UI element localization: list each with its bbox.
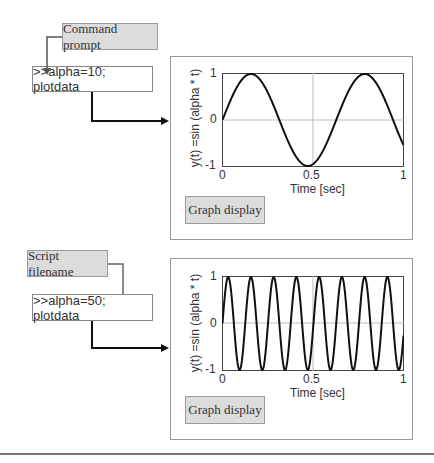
xtick-1-top: 1: [400, 168, 407, 182]
graph-display-text-bottom: Graph display: [188, 402, 261, 418]
xlabel-top: Time [sec]: [290, 182, 345, 196]
ylabel-bottom: y(t) =sin (alpha * t): [188, 258, 202, 388]
graph-display-button-bottom: Graph display: [185, 396, 265, 424]
bottom-divider: [0, 453, 434, 455]
xtick-0-top: 0: [219, 168, 226, 182]
plot-area-top: [222, 73, 404, 167]
command-box-bottom: >>alpha=50; plotdata: [32, 294, 153, 321]
ytick-1-top: 1: [210, 66, 217, 80]
ytick-1-bottom: 1: [210, 269, 217, 283]
xtick-05-top: 0.5: [303, 168, 320, 182]
ytick-0-bottom: 0: [210, 316, 217, 330]
script-filename-text: Script filename: [28, 248, 107, 280]
plot-area-bottom: [222, 276, 404, 371]
ytick-0-top: 0: [210, 112, 217, 126]
xtick-1-bottom: 1: [400, 372, 407, 386]
graph-display-text-top: Graph display: [188, 202, 261, 218]
graph-display-button-top: Graph display: [185, 196, 265, 224]
ylabel-top: y(t) =sin (alpha * t): [188, 53, 202, 183]
xlabel-bottom: Time [sec]: [290, 386, 345, 400]
command-text-bottom: >>alpha=50; plotdata: [33, 293, 152, 323]
ytick-neg1-bottom: -1: [205, 362, 216, 376]
ytick-neg1-top: -1: [205, 158, 216, 172]
xtick-0-bottom: 0: [219, 372, 226, 386]
script-filename-label: Script filename: [27, 250, 108, 277]
xtick-05-bottom: 0.5: [303, 372, 320, 386]
